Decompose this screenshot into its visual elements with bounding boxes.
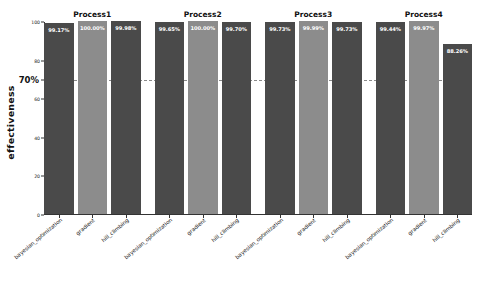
bar-value-label: 99.98% — [115, 25, 136, 31]
bar-group-title: Process2 — [155, 10, 252, 19]
bar-group: Process499.44%99.97%88.26% — [376, 22, 473, 215]
y-axis-label: effectiveness — [2, 0, 18, 283]
bar[interactable]: 99.44% — [376, 22, 406, 214]
bar[interactable]: 99.65% — [155, 22, 185, 214]
bar[interactable]: 100.00% — [188, 21, 218, 214]
bar-value-label: 99.70% — [226, 26, 247, 32]
bar-value-label: 99.73% — [336, 26, 357, 32]
y-tick-label: 20 — [34, 174, 40, 179]
bar-value-label: 99.99% — [303, 25, 324, 31]
bar[interactable]: 99.98% — [111, 21, 141, 214]
y-tick-label: 60 — [34, 97, 40, 102]
bar[interactable]: 99.17% — [44, 23, 74, 214]
bar[interactable]: 99.99% — [299, 21, 329, 214]
bar[interactable]: 88.26% — [443, 44, 473, 214]
plot-area: 020406070%80100 Process199.17%100.00%99.… — [44, 22, 472, 215]
y-tick-label: 80 — [34, 58, 40, 63]
bar-value-label: 99.73% — [269, 26, 290, 32]
bar-group-title: Process1 — [44, 10, 141, 19]
bar-group-title: Process3 — [265, 10, 362, 19]
y-tick-label: 40 — [34, 135, 40, 140]
bar[interactable]: 99.73% — [265, 22, 295, 214]
bar-group: Process399.73%99.99%99.73% — [265, 22, 362, 215]
y-axis-label-text: effectiveness — [5, 85, 16, 159]
bar-group-title: Process4 — [376, 10, 473, 19]
bar-value-label: 100.00% — [80, 25, 105, 31]
chart-figure: effectiveness 020406070%80100 Process199… — [0, 0, 481, 283]
y-tick-label: 0 — [37, 213, 40, 218]
bar[interactable]: 99.97% — [409, 21, 439, 214]
bar[interactable]: 99.70% — [222, 22, 252, 214]
bar[interactable]: 100.00% — [78, 21, 108, 214]
bar-value-label: 100.00% — [190, 25, 215, 31]
bar-value-label: 88.26% — [447, 48, 468, 54]
y-tick-label: 70% — [19, 75, 39, 85]
bar-value-label: 99.17% — [48, 27, 69, 33]
bar[interactable]: 99.73% — [332, 22, 362, 214]
bar-value-label: 99.44% — [380, 26, 401, 32]
bar-value-label: 99.65% — [159, 26, 180, 32]
bar-group: Process299.65%100.00%99.70% — [155, 22, 252, 215]
bar-value-label: 99.97% — [413, 25, 434, 31]
y-tick-label: 100 — [31, 20, 40, 25]
bar-group: Process199.17%100.00%99.98% — [44, 22, 141, 215]
